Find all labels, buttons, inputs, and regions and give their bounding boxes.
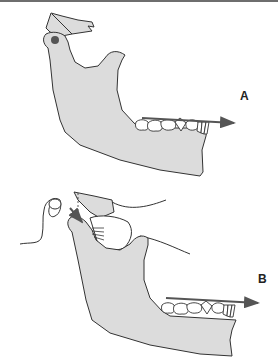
teeth-b bbox=[161, 301, 235, 317]
mandible-b bbox=[68, 216, 236, 356]
mandible-a bbox=[44, 32, 207, 176]
panel-label-a: A bbox=[240, 89, 249, 103]
condyle-dot bbox=[51, 36, 59, 44]
panel-a bbox=[44, 13, 234, 176]
temporal-bone-fragment-b bbox=[74, 192, 114, 218]
panel-b bbox=[20, 192, 258, 356]
panel-label-b: B bbox=[258, 272, 267, 286]
forward-arrow-b bbox=[166, 298, 258, 303]
mandible-diagram bbox=[0, 0, 278, 364]
